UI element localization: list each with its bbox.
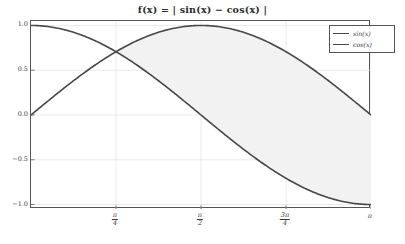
legend-item-label: cos(x) (353, 41, 372, 48)
x-tick-denominator: 4 (280, 220, 290, 227)
x-tick-value: π (368, 213, 372, 220)
y-tick-label: 1.0 (0, 20, 28, 28)
y-tick-label: 0.0 (0, 110, 28, 118)
legend-line-icon (333, 44, 349, 45)
y-tick-label: 0.5 (0, 65, 28, 73)
y-tick-label: −0.5 (0, 155, 28, 163)
x-tick-denominator: 2 (197, 220, 203, 227)
chart-figure: f(x) = | sin(x) − cos(x) | 1.00.50.0−0.5… (0, 0, 405, 244)
x-tick-label: π2 (197, 212, 203, 227)
x-tick-denominator: 4 (112, 220, 118, 227)
x-tick-label: 3π4 (280, 212, 290, 227)
plot-canvas (31, 21, 371, 209)
x-tick-label: π4 (112, 212, 118, 227)
legend-item-label: sin(x) (353, 30, 371, 37)
plot-area (30, 20, 370, 208)
chart-title: f(x) = | sin(x) − cos(x) | (0, 4, 405, 15)
legend-item[interactable]: sin(x) (333, 28, 391, 39)
y-tick-label: −1.0 (0, 200, 28, 208)
legend-line-icon (333, 33, 349, 34)
x-tick-label: π (368, 212, 372, 219)
legend-item[interactable]: cos(x) (333, 39, 391, 50)
chart-legend: sin(x) cos(x) (329, 25, 395, 53)
